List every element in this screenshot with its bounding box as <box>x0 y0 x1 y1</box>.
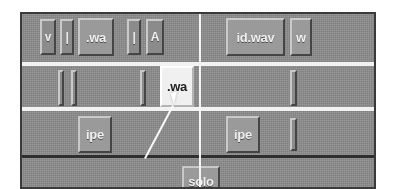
row2-slot-right-1[interactable] <box>290 70 297 106</box>
row1-button-5[interactable]: A <box>146 19 164 55</box>
tile-grid-panel: v | .wa | A id.wav w .wa ipe ipe solo <box>20 12 376 189</box>
row1-button-wa[interactable]: .wa <box>78 18 114 56</box>
row1-button-w[interactable]: w <box>290 18 312 56</box>
row3-slot-right-1[interactable] <box>290 118 297 151</box>
row1-button-id-wav[interactable]: id.wav <box>226 18 285 56</box>
row2-slot-1[interactable] <box>58 70 64 106</box>
row2-slot-2[interactable] <box>71 70 77 106</box>
row1-button-1[interactable]: v <box>40 19 56 55</box>
row4-button-solo[interactable]: solo <box>182 166 220 189</box>
row1-button-2[interactable]: | <box>60 19 74 55</box>
row-separator-1 <box>22 62 374 66</box>
row1-button-4[interactable]: | <box>127 19 141 55</box>
row3-button-ipe-left[interactable]: ipe <box>78 116 112 153</box>
row2-slot-3[interactable] <box>140 70 146 106</box>
drag-connection-line <box>144 105 174 159</box>
row3-button-ipe-right[interactable]: ipe <box>226 116 260 153</box>
column-separator <box>199 14 201 187</box>
row-separator-3 <box>22 155 374 158</box>
row-separator-2 <box>22 107 374 111</box>
screenshot-root: v | .wa | A id.wav w .wa ipe ipe solo <box>0 0 396 189</box>
